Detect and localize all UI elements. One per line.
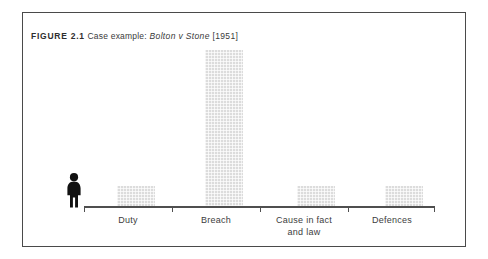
person-standing-icon [62,172,86,208]
x-axis-label-cause-in-fact-and-law: Cause in fact and law [260,215,348,238]
x-axis-label-breach-line1: Breach [201,215,231,225]
figure-container: FIGURE 2.1 Case example: Bolton v Stone … [0,0,488,259]
x-axis-tick-4 [434,206,435,212]
x-axis-tick-2 [260,206,261,212]
bar-chart-plot: Duty Breach Cause in fact and law Defenc… [0,0,488,259]
x-axis-label-defences: Defences [348,215,436,227]
x-axis-label-duty-line1: Duty [118,215,138,225]
bar-cause-in-fact-and-law [297,186,335,206]
bar-breach [205,50,243,206]
x-axis-label-breach: Breach [172,215,260,227]
x-axis-tick-1 [172,206,173,212]
x-axis-tick-0 [84,206,85,212]
x-axis-label-cause-line2: and law [288,227,321,237]
bar-defences [385,186,423,206]
x-axis-label-duty: Duty [84,215,172,227]
x-axis-label-cause-line1: Cause in fact [276,215,332,225]
x-axis-tick-3 [348,206,349,212]
x-axis-label-defences-line1: Defences [372,215,412,225]
bar-duty [117,186,155,206]
